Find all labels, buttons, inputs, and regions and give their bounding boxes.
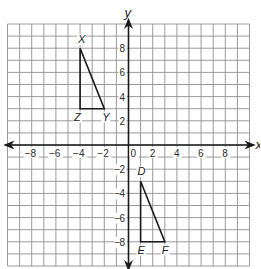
x-tick-label: 8 [222, 148, 228, 159]
vertex-label-x: X [77, 33, 86, 45]
y-tick-label: 6 [120, 67, 126, 78]
y-tick-label: 8 [120, 237, 126, 248]
x-tick-label: −6 [49, 148, 61, 159]
vertex-label-y: Y [102, 111, 110, 123]
x-tick-label: 6 [198, 148, 204, 159]
x-axis-label: x [255, 137, 261, 152]
y-tick-label: 4 [120, 188, 126, 199]
vertex-label-z: Z [73, 111, 82, 123]
y-tick-label: 6 [120, 213, 126, 224]
vertex-label-e: E [138, 244, 146, 256]
vertex-label-d: D [138, 165, 146, 177]
x-tick-label: 4 [174, 148, 180, 159]
y-tick-label: 2 [120, 116, 126, 127]
y-tick-label: 4 [120, 92, 126, 103]
x-tick-label: −2 [97, 148, 109, 159]
x-tick-label: 0 [131, 148, 137, 159]
x-tick-label: 2 [150, 148, 156, 159]
y-axis-label: y [124, 5, 133, 20]
x-tick-label: −8 [25, 148, 37, 159]
y-tick-label: 2 [120, 164, 126, 175]
y-tick-label: 8 [120, 43, 126, 54]
coordinate-plane: xy −8−6−4−2024688642−2−4−6−8 XYZDEF [0, 0, 260, 269]
x-tick-label: −4 [73, 148, 85, 159]
